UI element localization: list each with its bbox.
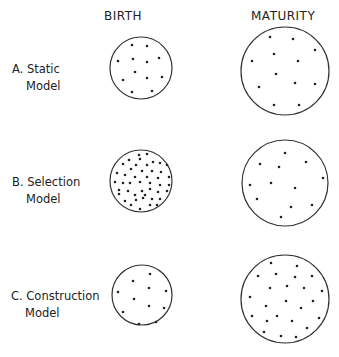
dot xyxy=(148,305,151,308)
dot xyxy=(124,200,127,203)
dot xyxy=(132,58,135,61)
dot xyxy=(151,170,154,173)
dot xyxy=(303,287,306,290)
dot xyxy=(269,36,272,39)
circle-B-birth xyxy=(110,150,172,212)
dot xyxy=(284,152,287,155)
dot xyxy=(146,176,149,179)
dot xyxy=(285,300,288,303)
dot xyxy=(163,307,166,310)
dot xyxy=(148,287,151,290)
dot xyxy=(139,208,142,211)
circle-outline xyxy=(112,265,172,325)
circle-outline xyxy=(241,27,329,115)
dot xyxy=(269,287,272,290)
dot xyxy=(161,76,164,79)
dot xyxy=(166,190,169,193)
dot xyxy=(146,164,149,167)
dot xyxy=(263,331,266,334)
dot xyxy=(297,60,300,63)
dot xyxy=(157,191,160,194)
dot xyxy=(146,77,149,80)
dot xyxy=(300,307,303,310)
dot xyxy=(138,154,141,157)
dot xyxy=(270,182,273,185)
dot xyxy=(311,204,314,207)
dot xyxy=(122,311,125,314)
dot xyxy=(257,275,260,278)
dot xyxy=(292,38,295,41)
dot xyxy=(265,305,268,308)
circle-outline xyxy=(241,255,329,343)
dot xyxy=(149,188,152,191)
dot xyxy=(322,177,325,180)
circle-outline xyxy=(110,37,172,99)
dot xyxy=(158,57,161,60)
dot xyxy=(135,199,138,202)
dot xyxy=(139,181,142,184)
dot xyxy=(273,53,276,56)
dot xyxy=(149,273,152,276)
dot xyxy=(151,198,154,201)
circle-A-maturity xyxy=(241,27,329,115)
dot xyxy=(318,317,321,320)
dot xyxy=(275,73,278,76)
dot xyxy=(133,298,136,301)
dot xyxy=(298,104,301,107)
dot xyxy=(159,162,162,165)
dot xyxy=(117,291,120,294)
circle-B-maturity xyxy=(242,140,328,226)
dot xyxy=(116,172,119,175)
dot xyxy=(290,206,293,209)
dot xyxy=(251,315,254,318)
dot xyxy=(276,315,279,318)
dot xyxy=(118,189,121,192)
dot xyxy=(122,79,125,82)
dot xyxy=(129,182,132,185)
circle-C-birth xyxy=(112,265,172,325)
dot xyxy=(156,204,159,207)
dot xyxy=(122,163,125,166)
dot xyxy=(149,204,152,207)
dot xyxy=(321,290,324,293)
dot xyxy=(270,262,273,265)
dot xyxy=(168,176,171,179)
dot xyxy=(117,60,120,63)
dot xyxy=(128,159,131,162)
dot xyxy=(118,193,121,196)
dot xyxy=(160,171,163,174)
dot xyxy=(258,86,261,89)
dot xyxy=(130,168,133,171)
dot xyxy=(312,300,315,303)
dot xyxy=(159,198,162,201)
dot xyxy=(151,90,154,93)
dot xyxy=(275,273,278,276)
dot xyxy=(280,216,283,219)
dot xyxy=(249,184,252,187)
dot xyxy=(146,45,149,48)
dot xyxy=(144,194,147,197)
dot xyxy=(127,190,130,193)
dot xyxy=(259,163,262,166)
dot xyxy=(251,60,254,63)
dot xyxy=(311,275,314,278)
dot xyxy=(114,181,117,184)
dot xyxy=(159,184,162,187)
dot xyxy=(294,276,297,279)
dot xyxy=(134,176,137,179)
dot xyxy=(146,153,149,156)
dot xyxy=(294,187,297,190)
dot xyxy=(131,91,134,94)
dot xyxy=(168,184,171,187)
dot xyxy=(249,296,252,299)
dot xyxy=(314,49,317,52)
dot xyxy=(142,197,145,200)
circle-A-birth xyxy=(110,37,172,99)
dot xyxy=(138,323,141,326)
dot xyxy=(141,190,144,193)
dot xyxy=(296,265,299,268)
dot xyxy=(134,194,137,197)
population-circles-diagram xyxy=(0,0,339,357)
dot xyxy=(124,174,127,177)
dot xyxy=(314,83,317,86)
